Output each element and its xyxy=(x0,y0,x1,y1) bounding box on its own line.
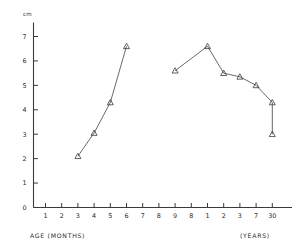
y-tick-label: 4 xyxy=(22,106,26,114)
x-tick-label: 30 xyxy=(268,212,276,220)
x-tick-label: 4 xyxy=(92,212,96,220)
x-tick-label: 2 xyxy=(60,212,64,220)
series-line-infancy xyxy=(78,46,127,156)
y-axis-unit-label: cm xyxy=(23,11,32,17)
y-tick-label: 3 xyxy=(22,131,26,139)
data-point-marker xyxy=(124,43,130,48)
x-tick-label: 8 xyxy=(157,212,161,220)
chart-canvas: 01234567 1234567898123730 cm AGE (MONTHS… xyxy=(0,0,299,252)
x-axis-title-years: (YEARS) xyxy=(240,232,270,239)
x-tick-label: 6 xyxy=(124,212,128,220)
y-tick-label: 5 xyxy=(22,82,26,90)
error-bars-group xyxy=(269,102,275,136)
y-axis-tick-labels: 01234567 xyxy=(22,33,26,212)
x-tick-label: 3 xyxy=(238,212,242,220)
data-series-group xyxy=(75,43,275,158)
y-tick-label: 1 xyxy=(22,179,26,187)
y-tick-label: 6 xyxy=(22,57,26,65)
x-tick-label: 9 xyxy=(173,212,177,220)
series-line-childhood-adulthood xyxy=(175,46,272,102)
x-tick-label: 7 xyxy=(254,212,258,220)
y-axis-ticks xyxy=(34,37,39,208)
y-tick-label: 7 xyxy=(22,33,26,41)
y-tick-label: 2 xyxy=(22,155,26,163)
y-tick-label: 0 xyxy=(22,204,26,212)
x-tick-label: 7 xyxy=(141,212,145,220)
x-tick-label: 1 xyxy=(43,212,47,220)
x-tick-label: 5 xyxy=(108,212,112,220)
x-axis-ticks xyxy=(46,203,273,208)
x-tick-label: 2 xyxy=(222,212,226,220)
x-axis-title-months: AGE (MONTHS) xyxy=(30,232,85,239)
growth-chart: 01234567 1234567898123730 cm AGE (MONTHS… xyxy=(0,0,299,252)
x-tick-label: 3 xyxy=(76,212,80,220)
x-tick-label: 1 xyxy=(205,212,209,220)
x-axis-tick-labels: 1234567898123730 xyxy=(43,212,276,220)
x-tick-label: 8 xyxy=(189,212,193,220)
